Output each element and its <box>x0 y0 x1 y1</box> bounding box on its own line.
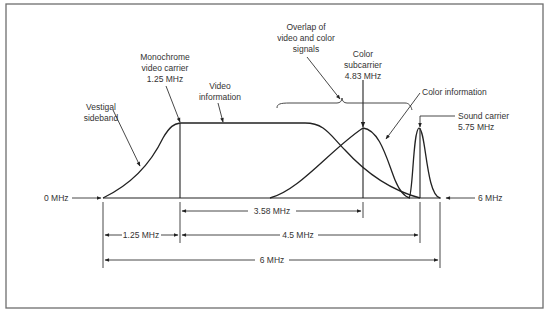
color-info-label: Color information <box>422 87 487 97</box>
color-subcarrier-label: Color subcarrier 4.83 MHz <box>344 49 382 81</box>
zero-mhz-label: 0 MHz <box>44 193 69 203</box>
vestigal-label: Vestigal sideband <box>84 102 119 123</box>
svg-text:4.5 MHz: 4.5 MHz <box>282 230 314 240</box>
svg-text:Overlap of: Overlap of <box>286 22 326 32</box>
video-info-label: Video information <box>199 81 241 102</box>
svg-text:signals: signals <box>293 44 319 54</box>
svg-text:4.83 MHz: 4.83 MHz <box>345 71 381 81</box>
sound-carrier-label: Sound carrier 5.75 MHz <box>458 111 509 132</box>
svg-text:subcarrier: subcarrier <box>344 60 382 70</box>
svg-text:video carrier: video carrier <box>142 63 189 73</box>
overlap-brace <box>277 98 412 110</box>
svg-text:6 MHz: 6 MHz <box>260 255 285 265</box>
overlap-label: Overlap of video and color signals <box>277 22 335 54</box>
svg-text:sideband: sideband <box>84 113 119 123</box>
sound-carrier-pointer <box>420 116 455 127</box>
svg-text:1.25 MHz: 1.25 MHz <box>147 74 183 84</box>
dimension-3-58-mhz: 3.58 MHz <box>182 206 361 216</box>
color-signal-curve <box>270 128 410 198</box>
tv-channel-spectrum-diagram: Vestigal sideband Monochrome video carri… <box>0 0 550 316</box>
svg-text:1.25 MHz: 1.25 MHz <box>123 230 159 240</box>
svg-text:Color: Color <box>353 49 373 59</box>
svg-text:Video: Video <box>209 81 231 91</box>
svg-text:3.58 MHz: 3.58 MHz <box>254 206 290 216</box>
mono-carrier-label: Monochrome video carrier 1.25 MHz <box>140 52 190 84</box>
svg-text:Monochrome: Monochrome <box>140 52 190 62</box>
svg-text:5.75 MHz: 5.75 MHz <box>458 122 494 132</box>
mono-carrier-pointer <box>166 86 180 122</box>
color-info-pointer <box>386 93 420 139</box>
svg-text:video and color: video and color <box>277 33 335 43</box>
six-mhz-label: 6 MHz <box>478 193 503 203</box>
dimension-1-25-mhz: 1.25 MHz <box>105 230 178 240</box>
video-signal-curve <box>103 123 420 198</box>
svg-text:information: information <box>199 92 241 102</box>
video-info-pointer <box>218 103 223 122</box>
dimension-6-mhz: 6 MHz <box>105 255 438 265</box>
overlap-pointer <box>307 57 340 99</box>
sound-carrier-curve <box>409 128 440 198</box>
dimension-4-5-mhz: 4.5 MHz <box>182 230 418 240</box>
svg-text:Sound carrier: Sound carrier <box>458 111 509 121</box>
svg-text:Vestigal: Vestigal <box>86 102 116 112</box>
